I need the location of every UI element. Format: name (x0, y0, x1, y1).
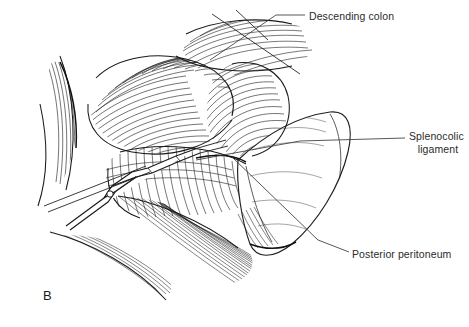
anatomical-line-art (0, 0, 469, 327)
surgical-illustration-figure: Descending colon Splenocolic ligament Po… (0, 0, 469, 327)
label-splenocolic-line2: ligament (409, 143, 467, 156)
label-splenocolic-line1: Splenocolic (409, 130, 464, 142)
hatching-descending-colon (176, 14, 314, 80)
label-posterior-peritoneum: Posterior peritoneum (352, 248, 451, 261)
label-descending-colon: Descending colon (309, 10, 394, 23)
hatching-bottom-left (50, 226, 178, 296)
peritoneal-flap (238, 112, 351, 255)
panel-letter: B (43, 288, 52, 303)
label-splenocolic-ligament: Splenocolic ligament (409, 130, 467, 155)
